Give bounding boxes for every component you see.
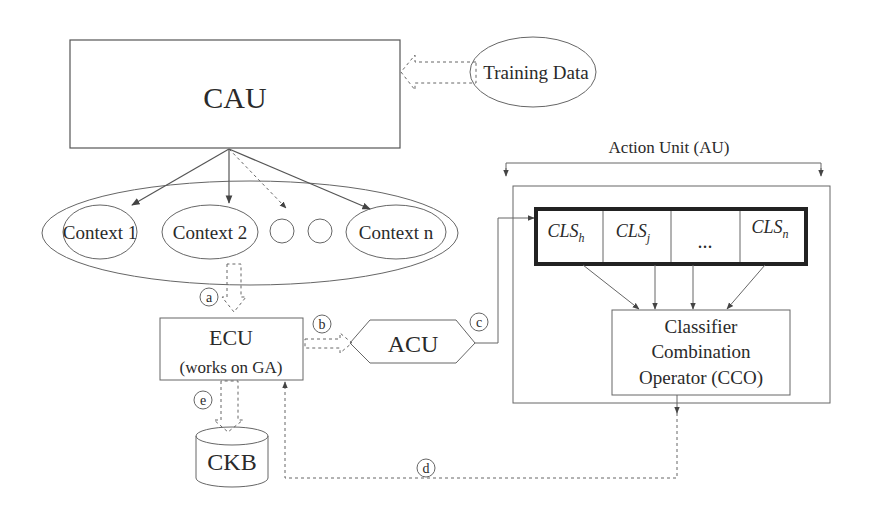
ecu-label: ECU xyxy=(209,325,253,350)
architecture-diagram: CAU Training Data Context 1 Context 2 Co… xyxy=(0,0,869,512)
training-data-node: Training Data xyxy=(470,37,596,107)
context-ellipsis-dot xyxy=(308,219,332,243)
cau-label: CAU xyxy=(203,81,267,114)
cau-node: CAU xyxy=(70,40,400,148)
cau-to-context-arrows xyxy=(132,149,370,209)
svg-text:a: a xyxy=(206,290,213,305)
svg-text:d: d xyxy=(423,461,430,476)
action-unit-label: Action Unit (AU) xyxy=(609,138,730,157)
action-unit-header: Action Unit (AU) xyxy=(506,138,821,176)
edge-label-b: b xyxy=(313,315,331,333)
acu-label: ACU xyxy=(388,331,439,357)
classifiers-to-cco-arrows xyxy=(583,265,765,309)
context-2-label: Context 2 xyxy=(173,222,247,243)
training-to-cau-arrow xyxy=(401,55,476,90)
context-group: Context 1 Context 2 Context n xyxy=(42,181,458,285)
classifier-n: CLSn xyxy=(751,217,788,241)
classifier-bank: CLSh CLSj ... CLSn xyxy=(536,209,806,264)
svg-text:Operator (CCO): Operator (CCO) xyxy=(639,367,763,389)
feedback-to-ecu-arrow xyxy=(285,382,677,478)
cco-node: Classifier Combination Operator (CCO) xyxy=(612,310,790,395)
svg-text:b: b xyxy=(319,317,326,332)
edge-label-e: e xyxy=(194,391,212,409)
acu-to-classifiers-arrow xyxy=(475,218,534,343)
ecu-to-ckb-arrow xyxy=(214,381,243,432)
edge-label-c: c xyxy=(470,313,488,331)
svg-text:Classifier: Classifier xyxy=(665,316,738,337)
classifier-ellipsis: ... xyxy=(698,230,713,252)
ecu-sublabel: (works on GA) xyxy=(180,358,283,377)
svg-text:Combination: Combination xyxy=(651,341,751,362)
classifier-j: CLSj xyxy=(616,221,651,245)
svg-text:c: c xyxy=(476,315,482,330)
acu-node: ACU xyxy=(350,320,475,363)
context-n-label: Context n xyxy=(359,222,434,243)
ckb-node: CKB xyxy=(196,427,268,487)
ckb-label: CKB xyxy=(207,449,256,475)
svg-text:e: e xyxy=(200,393,206,408)
context-ellipsis-dot xyxy=(270,219,294,243)
ecu-node: ECU (works on GA) xyxy=(160,318,303,380)
edge-label-a: a xyxy=(200,288,218,306)
edge-label-d: d xyxy=(417,459,435,477)
training-data-label: Training Data xyxy=(483,62,589,83)
context-1-label: Context 1 xyxy=(63,222,137,243)
ecu-to-acu-arrow xyxy=(305,333,352,353)
classifier-h: CLSh xyxy=(547,221,584,245)
context-to-ecu-arrow xyxy=(222,264,246,312)
